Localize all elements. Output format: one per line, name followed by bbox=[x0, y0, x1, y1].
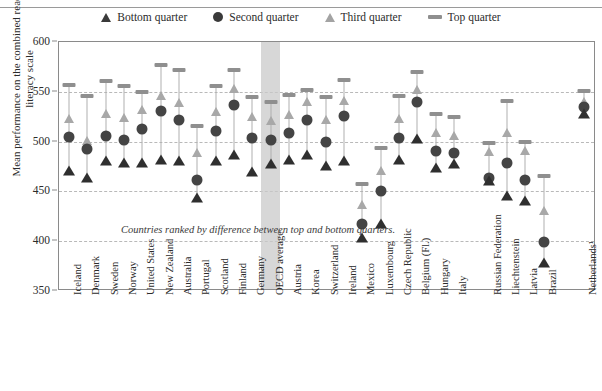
x-axis-label-finland: Finland bbox=[237, 263, 248, 295]
x-axis-label-iceland: Iceland bbox=[72, 264, 83, 295]
x-axis-label-sweden: Sweden bbox=[109, 262, 120, 295]
x-axis-label-denmark: Denmark bbox=[90, 256, 101, 295]
x-axis-label-netherlands: Netherlands¹ bbox=[587, 241, 598, 295]
x-axis-label-united-states: United States bbox=[145, 239, 156, 295]
x-axis-label-russian-federation: Russian Federation bbox=[492, 214, 503, 295]
x-axis-label-germany: Germany bbox=[255, 256, 266, 295]
x-axis-label-scotland: Scotland bbox=[219, 258, 230, 295]
x-axis-label-hungary: Hungary bbox=[439, 258, 450, 295]
x-axis-label-belgium-fl: Belgium (Fl.) bbox=[420, 238, 431, 295]
x-axis-label-liechtenstein: Liechtenstein bbox=[510, 238, 521, 295]
x-axis-label-oecd-average: OECD average bbox=[274, 231, 285, 295]
x-axis-label-australia: Australia bbox=[182, 257, 193, 296]
x-axis-label-norway: Norway bbox=[127, 261, 138, 295]
x-axis-label-ireland: Ireland bbox=[347, 265, 358, 295]
x-axis-label-brazil: Brazil bbox=[547, 269, 558, 295]
x-axis-label-mexico: Mexico bbox=[365, 263, 376, 295]
x-axis-category-labels: IcelandDenmarkSwedenNorwayUnited StatesN… bbox=[0, 0, 602, 391]
x-axis-label-latvia: Latvia bbox=[528, 268, 539, 295]
chart-page: Bottom quarterSecond quarterThird quarte… bbox=[0, 0, 602, 391]
x-axis-label-austria: Austria bbox=[292, 264, 303, 295]
x-axis-label-czech-republic: Czech Republic bbox=[402, 228, 413, 295]
x-axis-label-luxembourg: Luxembourg bbox=[384, 241, 395, 295]
x-axis-label-portugal: Portugal bbox=[200, 259, 211, 295]
x-axis-label-new-zealand: New Zealand bbox=[164, 239, 175, 295]
x-axis-label-italy: Italy bbox=[457, 276, 468, 295]
x-axis-label-switzerland: Switzerland bbox=[329, 245, 340, 295]
x-axis-label-korea: Korea bbox=[310, 269, 321, 295]
